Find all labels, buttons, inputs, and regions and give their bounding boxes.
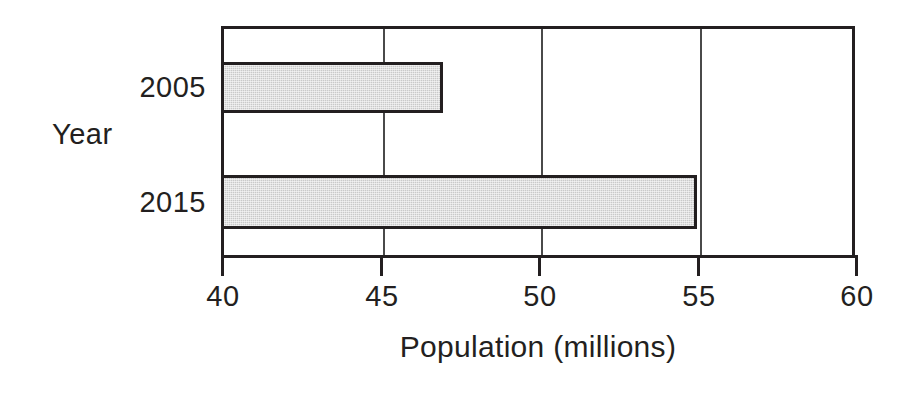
xtick-label-45: 45: [342, 280, 422, 312]
xtick-label-50: 50: [500, 280, 580, 312]
xtick-label-40: 40: [183, 280, 263, 312]
xtick-45: [380, 258, 383, 276]
x-axis-title: Population (millions): [221, 330, 855, 364]
xtick-60: [855, 258, 858, 276]
xtick-40: [221, 258, 224, 276]
ytick-label-2005: 2005: [96, 71, 206, 103]
xtick-label-60: 60: [817, 280, 897, 312]
xtick-label-55: 55: [659, 280, 739, 312]
gridline-55: [700, 29, 702, 257]
xtick-55: [697, 258, 700, 276]
bar-2015: [221, 175, 697, 229]
y-axis-title: Year: [52, 118, 113, 150]
bar-2005: [221, 62, 443, 113]
bar-chart-figure: 2005 2015 Year 40 45 50 55 60 Population…: [0, 0, 916, 402]
ytick-label-2015: 2015: [96, 186, 206, 218]
xtick-50: [538, 258, 541, 276]
